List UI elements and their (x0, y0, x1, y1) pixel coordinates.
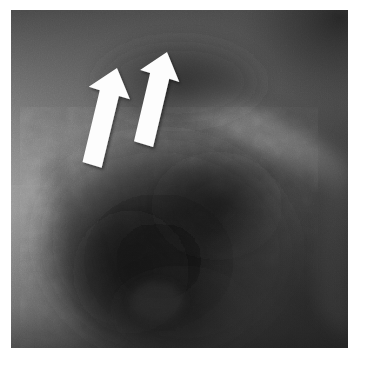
xray-image-frame (11, 10, 348, 348)
film-grain (11, 10, 348, 348)
xray-image (11, 10, 348, 348)
screenshot-canvas: arrow-1 arrow-2 Grayscale plain radiogra… (0, 0, 365, 365)
